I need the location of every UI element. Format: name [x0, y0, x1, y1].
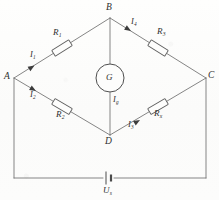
resistor-label-r3: R3 — [157, 27, 165, 36]
resistor-r3-symbol — [148, 40, 169, 56]
voltage-source-letter: U — [103, 185, 110, 195]
node-label-c: C — [208, 71, 214, 81]
current-ig-subscript: g — [116, 99, 119, 105]
resistor-r3-letter: R — [157, 26, 163, 36]
current-i2-subscript: 2 — [33, 94, 36, 100]
current-label-i1: I1 — [30, 50, 35, 59]
node-label-b: B — [106, 3, 112, 13]
resistor-r2-letter: R — [56, 109, 62, 119]
resistor-rx-letter: R — [154, 108, 160, 118]
figure-canvas: A B C D R1 R2 R3 Rx G Us I1 I2 I4 I3 Ig — [0, 0, 219, 200]
node-label-a: A — [4, 72, 10, 82]
resistor-label-rx: Rx — [154, 109, 162, 118]
circuit-schematic — [0, 0, 219, 200]
current-arrow-i1 — [28, 63, 36, 71]
battery-symbol — [106, 172, 111, 185]
current-arrow-i4 — [124, 25, 132, 33]
current-i3-subscript: 3 — [131, 124, 134, 130]
branch-d-c — [110, 78, 206, 135]
voltage-source-label: Us — [103, 186, 112, 195]
resistor-label-r2: R2 — [56, 110, 64, 119]
galvanometer-label: G — [106, 73, 113, 82]
current-i4-subscript: 4 — [134, 21, 137, 27]
current-label-i2: I2 — [30, 90, 35, 99]
node-label-d: D — [105, 137, 112, 147]
resistor-rx-subscript: x — [160, 113, 162, 119]
resistor-label-r1: R1 — [53, 28, 61, 37]
resistor-r1-letter: R — [53, 27, 59, 37]
branch-a-d — [14, 78, 110, 135]
branch-a-b — [14, 18, 110, 78]
resistor-r1-symbol — [52, 40, 73, 56]
current-label-ig: Ig — [113, 95, 118, 104]
current-label-i4: I4 — [131, 17, 136, 26]
current-i1-subscript: 1 — [33, 54, 36, 60]
current-label-i3: I3 — [128, 120, 133, 129]
voltage-source-subscript: s — [110, 190, 112, 196]
